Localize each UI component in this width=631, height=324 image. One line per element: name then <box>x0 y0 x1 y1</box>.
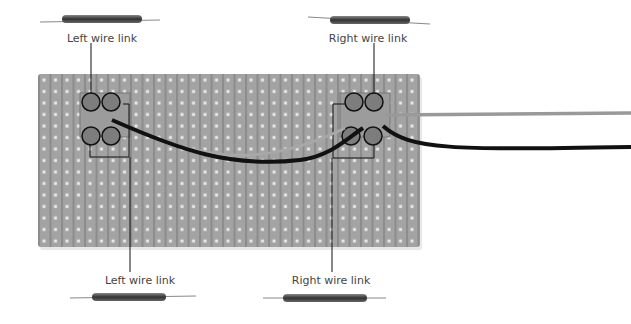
wire-link-bottom-right <box>263 294 386 302</box>
wire-link-top-right <box>308 16 430 24</box>
label-bottom-right-wire-link: Right wire link <box>292 274 371 287</box>
label-bottom-left-wire-link: Left wire link <box>105 274 175 287</box>
wire-link-top-left <box>40 15 160 23</box>
label-top-left-wire-link: Left wire link <box>67 32 137 45</box>
wire-link-bottom-left <box>70 293 196 301</box>
label-top-right-wire-link: Right wire link <box>329 32 408 45</box>
